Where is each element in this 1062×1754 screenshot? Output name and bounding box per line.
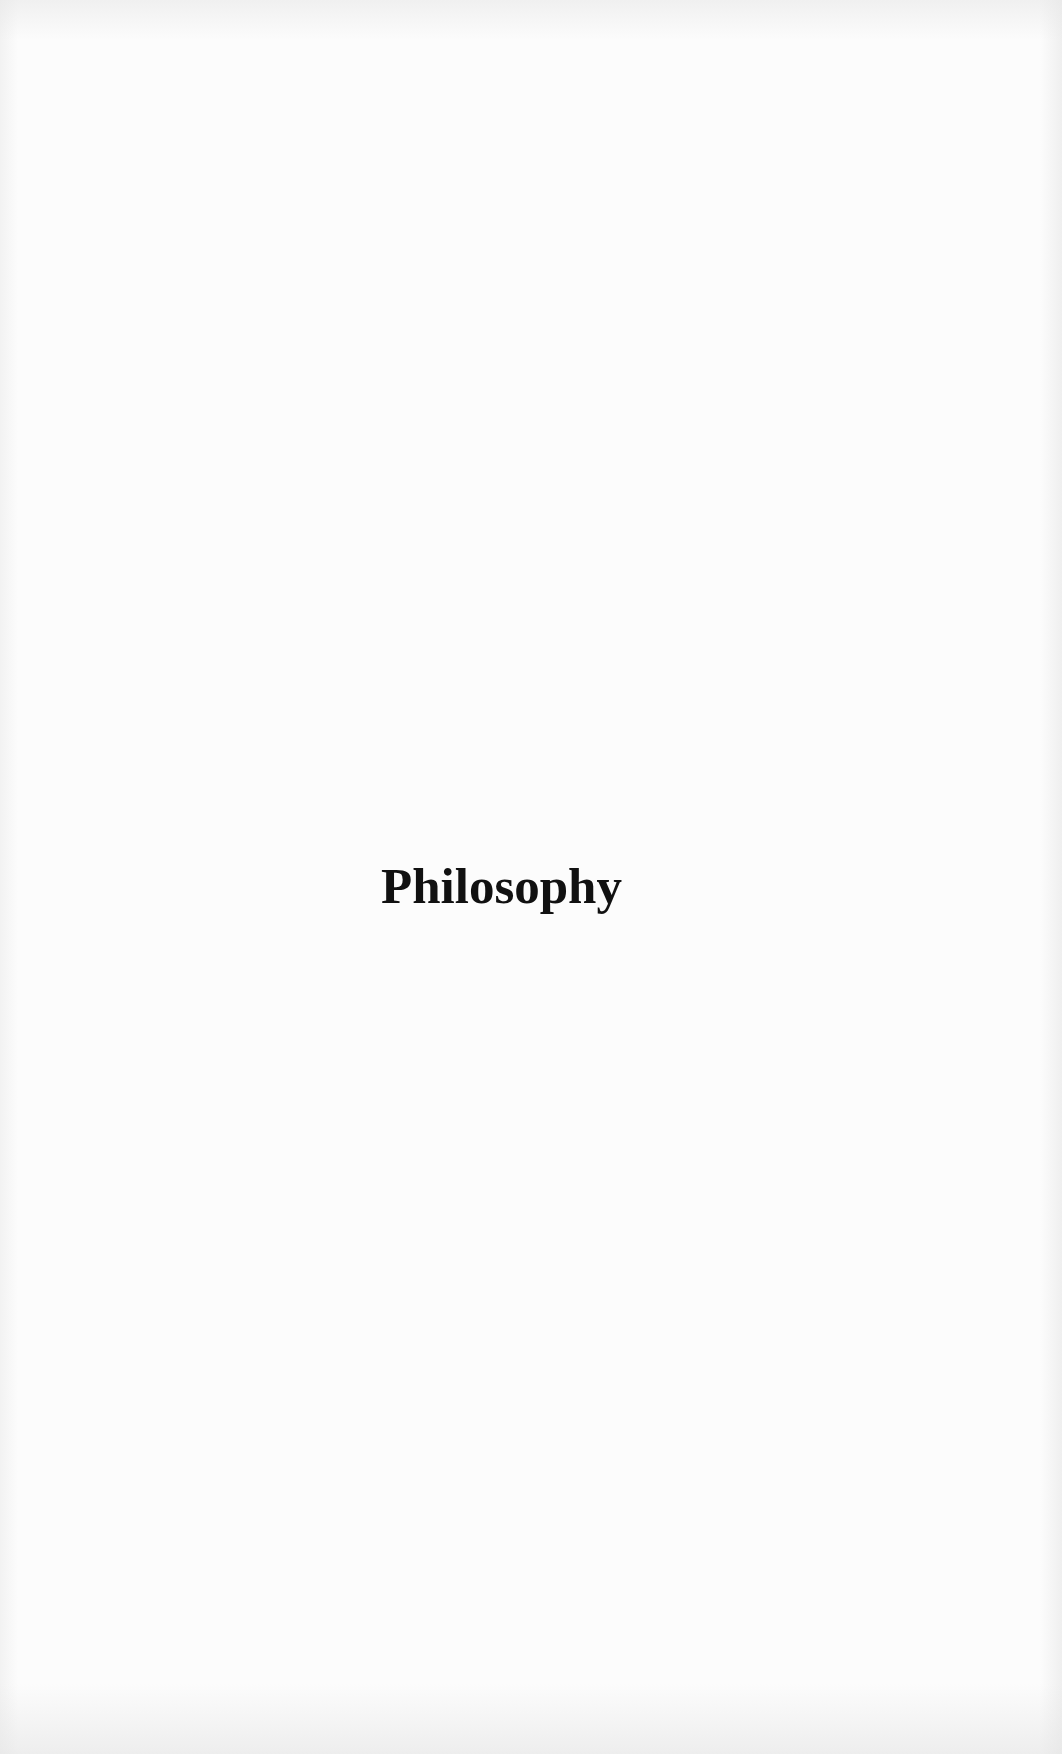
section-title: Philosophy — [0, 856, 1003, 916]
book-page: Philosophy — [0, 0, 1062, 1754]
